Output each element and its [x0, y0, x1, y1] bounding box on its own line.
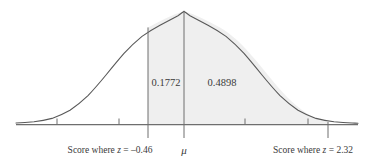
- shaded-area-region: [148, 11, 328, 124]
- mean-symbol-label: μ: [181, 145, 187, 156]
- axis-label-right-suffix: = 2.32: [326, 145, 353, 155]
- axis-label-left-prefix: Score where: [68, 145, 118, 155]
- area-label-right: 0.4898: [208, 78, 237, 89]
- area-label-left: 0.1772: [152, 78, 181, 89]
- axis-label-left-score: Score where z = –0.46: [68, 146, 153, 156]
- axis-label-right-score: Score where z = 2.32: [273, 146, 353, 156]
- axis-label-left-suffix: = –0.46: [121, 145, 152, 155]
- normal-distribution-figure: 0.1772 0.4898 Score where z = –0.46 μ Sc…: [0, 0, 370, 166]
- normal-curve-chart: [0, 0, 370, 166]
- axis-label-right-prefix: Score where: [273, 145, 323, 155]
